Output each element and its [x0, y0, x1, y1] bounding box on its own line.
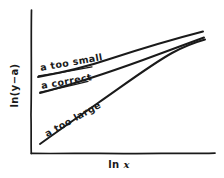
curve-a-too-small	[38, 32, 203, 78]
x-axis-line	[31, 153, 215, 154]
x-axis-label-variable: x	[123, 159, 129, 170]
x-axis-label: ln x	[96, 159, 142, 170]
y-axis-line	[31, 10, 32, 154]
x-axis-label-prefix: ln	[108, 159, 123, 170]
figure-loglog-plot: a too small a correct a too large ln(y−a…	[0, 0, 224, 178]
y-axis-label: ln(y−a)	[9, 58, 20, 114]
plot-drawing	[0, 0, 224, 178]
